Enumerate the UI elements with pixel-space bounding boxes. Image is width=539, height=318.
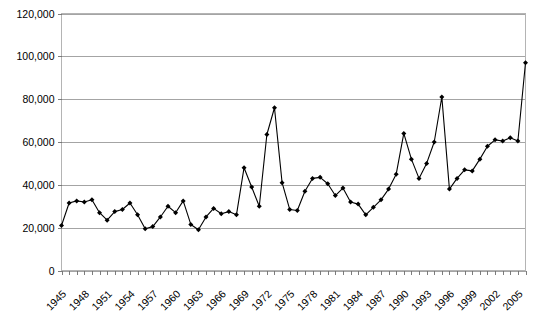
- y-axis-label-2: 40,000: [22, 179, 54, 191]
- y-axis-label-4: 80,000: [22, 93, 54, 105]
- chart-container: 020,00040,00060,00080,000100,000120,000 …: [0, 0, 539, 318]
- y-axis-label-1: 20,000: [22, 222, 54, 234]
- y-axis-label-5: 100,000: [17, 50, 55, 62]
- line-chart: 020,00040,00060,00080,000100,000120,000 …: [0, 0, 539, 318]
- y-axis-label-3: 60,000: [22, 136, 54, 148]
- y-axis-label-0: 0: [49, 265, 55, 277]
- y-axis-label-6: 120,000: [17, 8, 55, 20]
